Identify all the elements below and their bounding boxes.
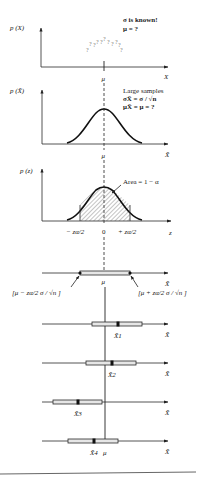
svg-text:?: ? bbox=[103, 36, 106, 42]
standard-normal-panel: p (z) z Area = 1 − α − zα/2 0 + zα/2 bbox=[19, 167, 172, 237]
interval-right-end bbox=[128, 271, 131, 274]
sample-mean-marker bbox=[111, 361, 114, 366]
mu-xbar-formula: μX̄ = μ = ? bbox=[123, 103, 155, 111]
normal-curve bbox=[67, 109, 142, 143]
sample-interval-1: X̄1 X̄ bbox=[42, 322, 170, 341]
interval-panel: μ X̄ [μ − zα/2 σ / √n ] [μ + zα/2 σ / √n… bbox=[12, 271, 187, 297]
svg-text:?: ? bbox=[111, 41, 114, 47]
plus-z-label: + zα/2 bbox=[118, 228, 137, 236]
svg-text:?: ? bbox=[96, 39, 99, 45]
mu-label: μ bbox=[102, 75, 106, 83]
right-bound-pointer bbox=[131, 276, 138, 287]
x-axis-label: X̄ bbox=[164, 409, 170, 417]
x-axis-label: X bbox=[163, 73, 169, 81]
sample-mean-label: X̄1 bbox=[113, 332, 122, 340]
upper-bound-label: [μ + zα/2 σ / √n ] bbox=[138, 289, 187, 297]
mu-label: μ bbox=[103, 449, 107, 457]
zero-label: 0 bbox=[102, 228, 106, 236]
sample-mean-marker bbox=[93, 439, 96, 444]
population-panel: p (X) X σ is known! μ = ? ? ? ? ? ? ? ? … bbox=[9, 16, 169, 83]
x-axis-label: X̄ bbox=[164, 370, 170, 378]
sample-interval-3: X̄3 X̄ bbox=[42, 400, 170, 419]
svg-text:?: ? bbox=[89, 41, 92, 47]
sample-mean-marker bbox=[77, 400, 80, 405]
sampling-distribution-panel: p (X̄) X̄ Large samples σX̄ = σ / √n μX̄… bbox=[9, 87, 170, 160]
mu-label: μ bbox=[102, 152, 106, 160]
sample-interval-2: X̄2 X̄ bbox=[42, 361, 170, 380]
sample-mean-marker bbox=[117, 322, 120, 327]
x-axis-label: X̄ bbox=[164, 151, 170, 159]
bottom-rule bbox=[0, 472, 196, 474]
minus-z-label: − zα/2 bbox=[66, 228, 85, 236]
lower-bound-label: [μ − zα/2 σ / √n ] bbox=[12, 289, 61, 297]
area-label: Area = 1 − α bbox=[123, 178, 159, 186]
y-axis-label: p (X̄) bbox=[9, 87, 25, 95]
sample-mean-label: X̄4 bbox=[89, 449, 98, 457]
area-pointer bbox=[112, 185, 121, 193]
sigma-xbar-formula: σX̄ = σ / √n bbox=[123, 95, 156, 103]
sigma-known-note: σ is known! bbox=[123, 16, 158, 24]
svg-text:?: ? bbox=[120, 47, 123, 53]
x-axis-label: z bbox=[168, 229, 172, 237]
mu-label: μ bbox=[102, 278, 106, 286]
mu-unknown-note: μ = ? bbox=[123, 25, 138, 33]
sample-mean-label: X̄3 bbox=[73, 410, 82, 418]
large-samples-note: Large samples bbox=[123, 87, 164, 95]
y-axis-label: p (z) bbox=[19, 167, 33, 175]
question-marks: ? ? ? ? ? ? ? ? ? ? ? bbox=[86, 36, 123, 53]
svg-text:?: ? bbox=[107, 39, 110, 45]
y-axis-label: p (X) bbox=[9, 24, 25, 32]
x-axis-label: X̄ bbox=[164, 280, 170, 288]
left-bound-pointer bbox=[71, 276, 79, 287]
sample-interval-4: X̄4 μ X̄ bbox=[42, 439, 170, 458]
interval-left-end bbox=[78, 271, 81, 274]
interval-bar bbox=[80, 271, 130, 275]
x-axis-label: X̄ bbox=[164, 331, 170, 339]
x-axis-label: X̄ bbox=[164, 448, 170, 456]
svg-text:?: ? bbox=[86, 47, 89, 53]
sample-mean-label: X̄2 bbox=[107, 371, 116, 379]
confidence-interval-diagram: p (X) X σ is known! μ = ? ? ? ? ? ? ? ? … bbox=[0, 0, 210, 481]
